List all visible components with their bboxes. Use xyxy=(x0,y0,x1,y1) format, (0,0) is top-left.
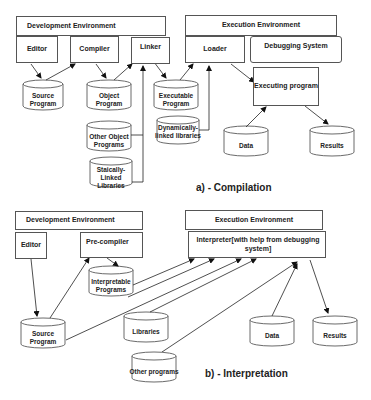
executable-program-label-a: Executable Program xyxy=(154,84,198,110)
dev-env-box-b: Development Environment xyxy=(15,211,143,230)
source-program-label-a: Source Program xyxy=(23,84,63,110)
exec-env-box-b: Execution Environment xyxy=(185,210,323,230)
interpretable-programs-label-b: Interpretable Programs xyxy=(89,270,133,296)
editor-box-b: Editor xyxy=(15,232,47,259)
caption-interpretation: b) - Interpretation xyxy=(205,368,288,379)
exec-env-box-a: Execution Environment xyxy=(185,15,337,36)
loader-box-a: Loader xyxy=(185,36,245,63)
data-label-b: Data xyxy=(250,320,294,346)
results-label-a: Results xyxy=(310,130,354,156)
interpreter-box-b: Interpreter[with help from debugging sys… xyxy=(188,231,326,258)
static-libraries-label-a: Staically-Linked Libraries xyxy=(90,161,132,189)
editor-box-a: Editor xyxy=(16,36,58,63)
caption-compilation: a) - Compilation xyxy=(196,182,272,193)
compiler-box-a: Compiler xyxy=(70,36,119,63)
dynamic-libraries-label-a: Dynamically-linked libraries xyxy=(155,118,201,140)
results-label-b: Results xyxy=(313,320,357,346)
data-label-a: Data xyxy=(224,130,268,156)
executing-program-box-a: Executing program xyxy=(253,67,319,106)
object-program-label-a: Object Program xyxy=(87,84,131,110)
linker-box-a: Linker xyxy=(131,37,170,64)
source-program-label-b: Source Program xyxy=(21,322,65,348)
dev-env-box-a: Development Environment xyxy=(16,16,166,36)
debugging-system-box-a: Debugging System xyxy=(250,36,342,63)
other-object-programs-label-a: Other Object Programs xyxy=(87,125,131,151)
other-programs-label-b: Other programs xyxy=(128,356,180,382)
precompiler-box-b: Pre-compiler xyxy=(80,232,143,258)
libraries-label-b: Libraries xyxy=(124,316,168,342)
